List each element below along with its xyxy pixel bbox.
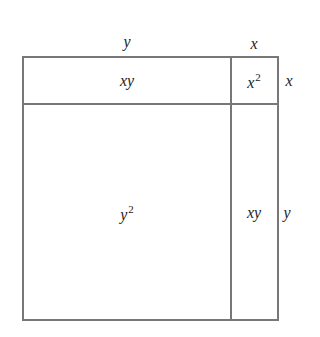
cell-top-left-label: xy <box>120 73 134 89</box>
top-left-dimension-label: y <box>123 34 130 50</box>
outer-square <box>22 56 279 321</box>
right-top-dimension-label: x <box>285 73 292 89</box>
top-right-dimension-label: x <box>250 36 257 52</box>
vertical-divider <box>230 56 232 321</box>
cell-top-right-label: x2 <box>247 72 261 91</box>
cell-bottom-left-label: y2 <box>120 204 134 223</box>
horizontal-divider <box>22 103 279 105</box>
right-bottom-dimension-label: y <box>283 205 290 221</box>
cell-bottom-right-label: xy <box>247 205 261 221</box>
